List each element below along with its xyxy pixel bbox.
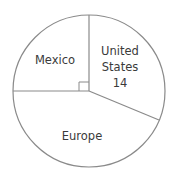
label-mexico: Mexico — [35, 53, 75, 67]
label-united: United — [101, 44, 139, 58]
label-states: States — [102, 60, 138, 74]
label-europe: Europe — [62, 129, 102, 143]
label-us-value: 14 — [113, 76, 128, 90]
pie-chart: Mexico United States 14 Europe — [0, 0, 170, 178]
